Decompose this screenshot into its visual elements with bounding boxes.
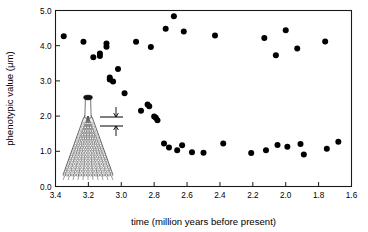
specimen-pore <box>97 174 99 176</box>
specimen-pore <box>69 167 71 169</box>
specimen-pore <box>74 167 76 169</box>
specimen-pore <box>97 152 99 154</box>
x-axis-tick-label: 2.6 <box>181 191 193 200</box>
specimen-pore <box>72 163 74 165</box>
data-point <box>166 144 172 150</box>
specimen-pore <box>104 156 106 158</box>
specimen-pore <box>95 141 97 143</box>
specimen-pore <box>84 163 86 165</box>
specimen-pore <box>94 170 96 172</box>
specimen-pore <box>79 159 81 161</box>
data-point <box>298 141 304 147</box>
specimen-pore <box>87 137 89 139</box>
specimen-pore <box>75 156 77 158</box>
specimen-pore <box>102 170 104 172</box>
data-point <box>261 35 267 41</box>
specimen-pore <box>87 152 89 154</box>
specimen-pore <box>97 163 99 165</box>
specimen-pore <box>102 163 104 165</box>
specimen-pore <box>89 152 91 154</box>
specimen-pore <box>74 159 76 161</box>
specimen-pore <box>66 167 68 169</box>
specimen-pore <box>77 156 79 158</box>
specimen-pore <box>74 145 76 147</box>
data-point <box>103 44 109 50</box>
data-point <box>322 38 328 44</box>
x-axis-tick-label: 1.8 <box>313 191 325 200</box>
specimen-pore <box>94 137 96 139</box>
specimen-pore <box>99 170 101 172</box>
data-point <box>201 150 207 156</box>
fossil-specimen-illustration <box>63 95 123 180</box>
specimen-pore <box>76 167 78 169</box>
specimen-pore <box>76 174 78 176</box>
specimen-pore <box>84 152 86 154</box>
specimen-pore <box>89 170 91 172</box>
specimen-pore <box>91 130 93 132</box>
x-axis-tick-label: 2.0 <box>280 191 292 200</box>
specimen-pore <box>84 167 86 169</box>
specimen-pore <box>84 141 86 143</box>
specimen-pore <box>92 156 94 158</box>
specimen-pore <box>94 163 96 165</box>
specimen-pore <box>89 167 91 169</box>
specimen-pore <box>92 134 94 136</box>
specimen-pore <box>85 148 87 150</box>
specimen-pore <box>92 170 94 172</box>
specimen-pore <box>89 174 91 176</box>
specimen-pore <box>103 174 105 176</box>
data-point <box>212 32 218 38</box>
specimen-pore <box>79 145 81 147</box>
specimen-pore <box>79 167 81 169</box>
specimen-pore <box>84 145 86 147</box>
data-point <box>248 150 254 156</box>
specimen-pore <box>105 174 107 176</box>
specimen-pore <box>87 174 89 176</box>
specimen-pore <box>91 148 93 150</box>
specimen-pore <box>69 159 71 161</box>
specimen-pore <box>89 148 91 150</box>
specimen-pore <box>87 163 89 165</box>
specimen-pore <box>87 126 89 128</box>
specimen-pore <box>94 130 96 132</box>
specimen-pore <box>92 167 94 169</box>
specimen-pore <box>82 159 84 161</box>
specimen-pore <box>92 145 94 147</box>
specimen-pore <box>94 145 96 147</box>
specimen-pore <box>71 159 73 161</box>
specimen-pore <box>80 163 82 165</box>
y-axis-tick-label: 1.0 <box>40 147 52 156</box>
specimen-pore <box>80 137 82 139</box>
y-axis-tick-label: 5.0 <box>40 7 52 16</box>
specimen-pore <box>74 152 76 154</box>
specimen-pore <box>101 156 103 158</box>
data-point <box>80 39 86 45</box>
data-point <box>174 147 180 153</box>
specimen-pore <box>76 141 78 143</box>
specimen-pore <box>98 141 100 143</box>
y-axis-tick-label: 3.0 <box>40 77 52 86</box>
specimen-pore <box>100 159 102 161</box>
specimen-pore <box>85 130 87 132</box>
x-axis-tick-label: 3.2 <box>83 191 95 200</box>
specimen-pore <box>104 170 106 172</box>
specimen-pore <box>84 170 86 172</box>
specimen-pore <box>94 148 96 150</box>
specimen-pore <box>91 123 93 125</box>
specimen-pore <box>79 174 81 176</box>
specimen-pore <box>72 170 74 172</box>
specimen-pore <box>87 159 89 161</box>
specimen-pore <box>92 174 94 176</box>
specimen-pore <box>84 134 86 136</box>
specimen-pore <box>105 159 107 161</box>
specimen-pore <box>71 167 73 169</box>
specimen-pore <box>97 137 99 139</box>
data-point <box>148 44 154 50</box>
figure-container: 3.43.23.02.82.62.42.22.01.81.60.01.02.03… <box>0 0 368 232</box>
specimen-pore <box>67 170 69 172</box>
specimen-pore <box>96 156 98 158</box>
specimen-pore <box>82 174 84 176</box>
x-axis-title: time (million years before present) <box>131 216 276 227</box>
specimen-pore <box>90 126 92 128</box>
data-point <box>161 141 167 147</box>
